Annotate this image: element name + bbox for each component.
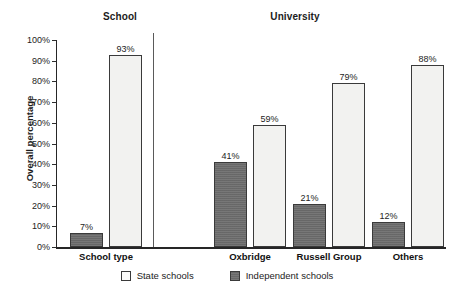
y-tick-mark — [52, 123, 56, 124]
y-tick-mark — [52, 185, 56, 186]
legend-item-independent: Independent schools — [230, 270, 334, 281]
y-axis-line — [56, 40, 57, 248]
bar-chart: School University Overall percentage 0%1… — [0, 0, 454, 298]
y-tick-label: 0% — [37, 242, 50, 252]
bar-value-label: 41% — [221, 151, 239, 161]
y-tick-mark — [52, 206, 56, 207]
legend-swatch-state — [121, 271, 131, 281]
x-label-others: Others — [393, 251, 424, 262]
legend-label: Independent schools — [246, 270, 334, 281]
y-tick-mark — [52, 144, 56, 145]
y-tick-label: 10% — [32, 221, 50, 231]
bar-value-label: 12% — [379, 211, 397, 221]
bar-others-independent: 12% — [372, 222, 405, 247]
bar-school-type-state: 93% — [109, 55, 142, 248]
bar-school-type-independent: 7% — [70, 233, 103, 247]
bar-oxbridge-independent: 41% — [214, 162, 247, 247]
section-header-university: University — [215, 11, 375, 22]
y-tick-label: 30% — [32, 180, 50, 190]
y-tick-label: 50% — [32, 139, 50, 149]
legend-label: State schools — [137, 270, 194, 281]
x-axis-line — [56, 247, 446, 249]
y-tick-mark — [52, 40, 56, 41]
bar-russell-group-independent: 21% — [293, 204, 326, 247]
bar-value-label: 79% — [339, 72, 357, 82]
y-tick-label: 20% — [32, 201, 50, 211]
bar-value-label: 93% — [116, 44, 134, 54]
y-tick-mark — [52, 61, 56, 62]
chart-legend: State schoolsIndependent schools — [0, 270, 454, 281]
bar-others-state: 88% — [411, 65, 444, 247]
plot-area: 0%10%20%30%40%50%60%70%80%90%100% 7%93%4… — [56, 40, 446, 247]
bar-russell-group-state: 79% — [332, 83, 365, 247]
section-header-school: School — [60, 11, 180, 22]
y-tick-mark — [52, 81, 56, 82]
x-label-school-type: School type — [79, 251, 133, 262]
x-label-oxbridge: Oxbridge — [229, 251, 271, 262]
section-divider-line — [153, 33, 154, 247]
y-tick-label: 60% — [32, 118, 50, 128]
bar-value-label: 88% — [418, 54, 436, 64]
bar-value-label: 7% — [80, 222, 93, 232]
y-tick-label: 70% — [32, 97, 50, 107]
x-label-russell-group: Russell Group — [297, 251, 362, 262]
y-tick-mark — [52, 164, 56, 165]
y-tick-label: 80% — [32, 76, 50, 86]
y-tick-label: 100% — [27, 35, 50, 45]
y-tick-mark — [52, 102, 56, 103]
y-tick-mark — [52, 226, 56, 227]
y-tick-mark — [52, 247, 56, 248]
legend-item-state: State schools — [121, 270, 194, 281]
bar-value-label: 21% — [300, 193, 318, 203]
bar-value-label: 59% — [260, 114, 278, 124]
y-tick-label: 40% — [32, 159, 50, 169]
y-tick-label: 90% — [32, 56, 50, 66]
bar-oxbridge-state: 59% — [253, 125, 286, 247]
legend-swatch-independent — [230, 271, 240, 281]
